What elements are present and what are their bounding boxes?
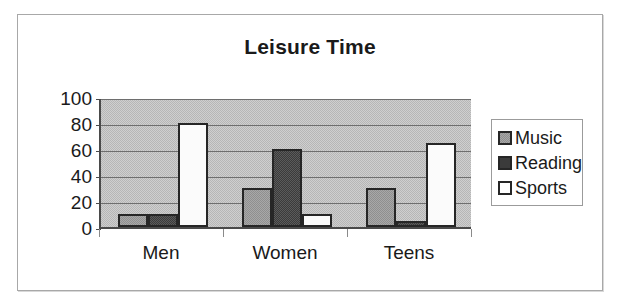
- y-tick-label-0: 0: [48, 219, 92, 238]
- bar-men-music[interactable]: [118, 214, 148, 227]
- legend-item-reading[interactable]: Reading: [498, 150, 577, 175]
- y-tick-mark-100: [96, 99, 101, 100]
- bar-women-music[interactable]: [242, 188, 272, 227]
- y-axis-tick-labels: 020406080100: [42, 99, 92, 229]
- y-tick-label-100: 100: [48, 89, 92, 108]
- legend-label-sports: Sports: [515, 179, 567, 197]
- x-axis-label-men: Men: [99, 243, 223, 262]
- bar-teens-reading[interactable]: [396, 221, 426, 228]
- y-tick-label-60: 60: [48, 141, 92, 160]
- legend-item-sports[interactable]: Sports: [498, 175, 577, 200]
- y-tick-mark-60: [96, 151, 101, 152]
- y-tick-mark-20: [96, 203, 101, 204]
- sports-swatch-icon: [498, 181, 512, 195]
- bar-teens-music[interactable]: [366, 188, 396, 227]
- x-axis-label-teens: Teens: [347, 243, 471, 262]
- category-separator-1: [223, 229, 224, 237]
- y-tick-label-40: 40: [48, 167, 92, 186]
- chart-frame: Leisure Time 020406080100 MenWomenTeens …: [17, 14, 603, 291]
- bar-men-reading[interactable]: [148, 214, 178, 227]
- x-axis-label-women: Women: [223, 243, 347, 262]
- chart-title: Leisure Time: [18, 35, 602, 59]
- y-tick-mark-40: [96, 177, 101, 178]
- legend-item-music[interactable]: Music: [498, 125, 577, 150]
- music-swatch-icon: [498, 131, 512, 145]
- reading-swatch-icon: [498, 156, 512, 170]
- legend-label-music: Music: [515, 129, 562, 147]
- category-separator-2: [347, 229, 348, 237]
- category-separator-0: [99, 229, 100, 237]
- y-tick-label-80: 80: [48, 115, 92, 134]
- gridline-80: [101, 125, 471, 126]
- y-tick-mark-80: [96, 125, 101, 126]
- legend-label-reading: Reading: [515, 154, 582, 172]
- bar-men-sports[interactable]: [178, 123, 208, 227]
- bar-teens-sports[interactable]: [426, 143, 456, 228]
- bar-women-sports[interactable]: [302, 214, 332, 227]
- chart-legend: MusicReadingSports: [491, 119, 583, 206]
- plot-area: [99, 99, 471, 229]
- bar-women-reading[interactable]: [272, 149, 302, 227]
- category-separator-3: [471, 229, 472, 237]
- y-tick-label-20: 20: [48, 193, 92, 212]
- gridline-100: [101, 99, 471, 100]
